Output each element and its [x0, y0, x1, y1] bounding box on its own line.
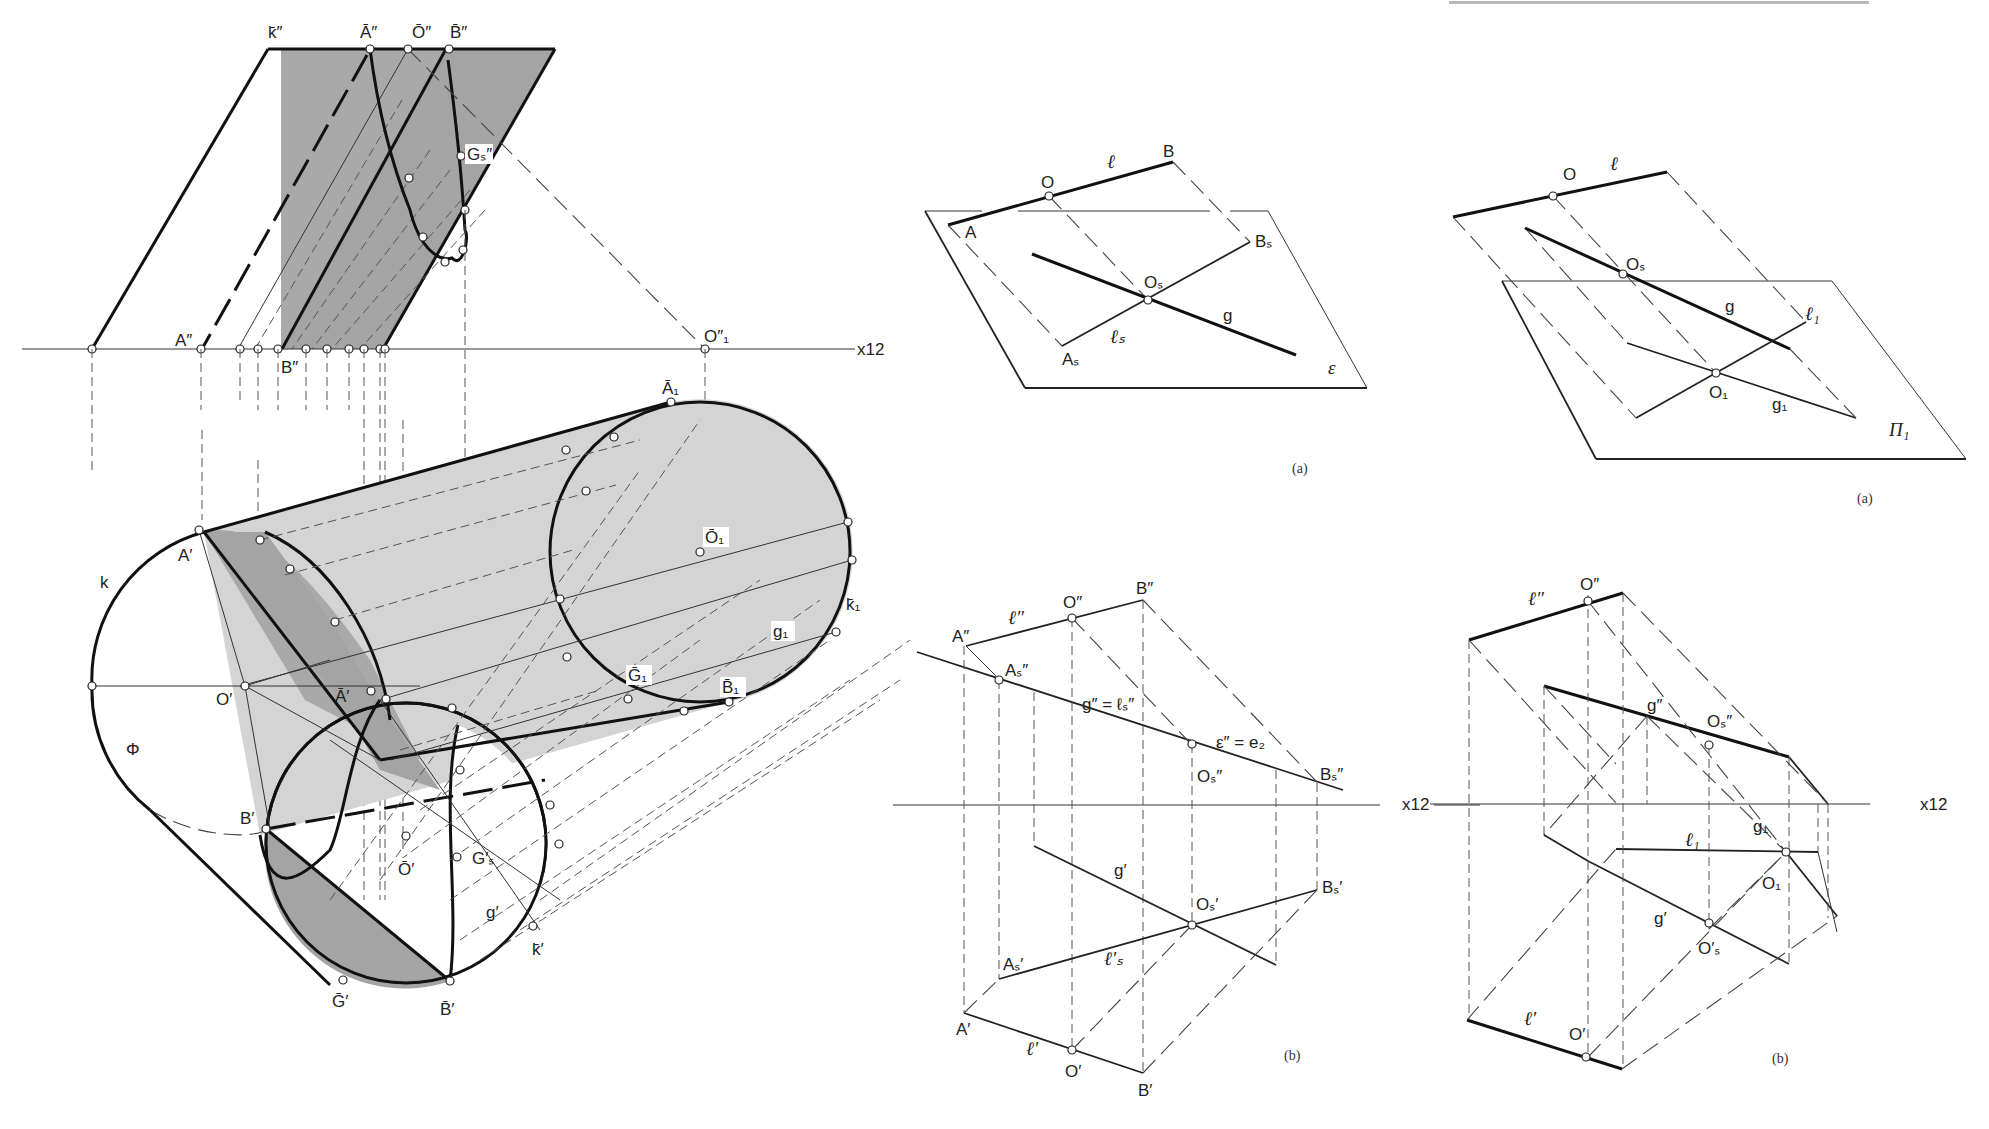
label-l1: ℓ₁ [1685, 829, 1700, 850]
label-a-dd: A″ [175, 331, 192, 350]
label-o-dd: O″ [1063, 593, 1082, 612]
label-o-bar-prime: Ō′ [398, 860, 414, 879]
label-os-p: O′ₛ [1698, 939, 1720, 958]
label-as: Aₛ [1062, 350, 1079, 369]
label-os-dd: Oₛ″ [1197, 767, 1222, 786]
caption-mid-b: (b) [1284, 1048, 1301, 1064]
caption-right-a: (a) [1857, 491, 1873, 507]
caption-mid-a: (a) [1292, 461, 1308, 477]
circle-k [92, 532, 204, 810]
label-l-p: ℓ′ [1026, 1038, 1039, 1059]
figure-right-b: ℓ″ O″ g″ Oₛ″ x12 g₁ ℓ₁ O₁ g′ O′ₛ ℓ′ O′ (… [1430, 575, 1947, 1069]
label-phi: Φ [126, 740, 140, 759]
label-g-dd: g″ [1647, 696, 1662, 715]
label-k-bar-dd: k̄″ [268, 23, 283, 42]
label-l: ℓ [1107, 151, 1115, 172]
label-g-prime: g′ [486, 903, 499, 922]
figure-mid-a: O ℓ B A Bₛ Oₛ g ℓₛ Aₛ ε (a) [925, 142, 1367, 477]
figure-left-cylinder-shadow [22, 45, 910, 989]
label-os-p: Oₛ′ [1196, 895, 1218, 914]
label-o1-bar: Ō₁ [705, 528, 724, 547]
label-bs-dd: Bₛ″ [1320, 765, 1343, 784]
label-b-dd: B″ [281, 358, 298, 377]
label-a-dd: A″ [952, 627, 969, 646]
label-g: g [1725, 297, 1734, 316]
label-g1-bar: Ḡ₁ [628, 666, 647, 685]
figure-mid-b: A″ ℓ″ O″ B″ Aₛ″ g″ = ℓₛ″ ε″ = e₂ Oₛ″ Bₛ″… [893, 579, 1480, 1100]
axis-label-x12-mid: x12 [1402, 795, 1429, 814]
label-g: g [1223, 306, 1232, 325]
label-os: Oₛ [1144, 273, 1163, 292]
label-o1: O₁ [1762, 874, 1781, 893]
label-a: A [965, 223, 977, 242]
label-o-bar-dd: Ō″ [412, 23, 431, 42]
axis-label-x12-right: x12 [1920, 795, 1947, 814]
caption-right-b: (b) [1772, 1051, 1789, 1067]
label-l: ℓ [1610, 153, 1618, 174]
label-g1: g₁ [1753, 817, 1768, 836]
label-gs-prime: G′ₛ [472, 849, 494, 868]
label-g1: g₁ [1772, 395, 1787, 414]
label-ls-p: ℓ′ₛ [1104, 948, 1124, 969]
label-b-prime: B′ [240, 809, 255, 828]
label-l-dd: ℓ″ [1008, 607, 1025, 628]
label-os: Oₛ [1626, 255, 1645, 274]
label-bs: Bₛ [1255, 232, 1272, 251]
label-a-bar-prime: Ā′ [335, 687, 350, 706]
label-g1: g₁ [773, 622, 788, 641]
label-a-prime: A′ [178, 546, 193, 565]
label-g-eq: g″ = ℓₛ″ [1082, 695, 1134, 714]
label-o: O [1563, 165, 1576, 184]
label-pi1: Π₁ [1888, 419, 1909, 440]
label-as-p: Aₛ′ [1003, 955, 1024, 974]
label-gs-dd: Gₛ″ [467, 145, 492, 164]
label-bs-p: Bₛ′ [1322, 878, 1343, 897]
label-o1-dd: O″₁ [704, 327, 729, 346]
label-a-bar-dd: Ā″ [360, 23, 377, 42]
label-a1-bar: Ā₁ [662, 379, 679, 398]
label-g-bar-prime: Ḡ′ [332, 992, 348, 1011]
label-k1-bar: k̄₁ [846, 595, 861, 614]
label-b1-bar: B̄₁ [722, 678, 739, 697]
axis-label-x12-left: x12 [857, 340, 884, 359]
label-b-bar-dd: B̄″ [450, 23, 467, 42]
label-ls: ℓₛ [1110, 326, 1126, 347]
label-o-p: O′ [1569, 1025, 1585, 1044]
label-a-p: A′ [956, 1020, 971, 1039]
label-o1: O₁ [1709, 383, 1728, 402]
label-l-dd: ℓ″ [1528, 588, 1545, 609]
label-as-dd: Aₛ″ [1005, 661, 1028, 680]
label-k-bar-prime: k̄′ [532, 940, 544, 959]
label-eps-eq: ε″ = e₂ [1216, 733, 1265, 752]
label-b: B [1163, 142, 1174, 161]
label-l1: ℓ₁ [1805, 303, 1820, 324]
geometry-plates: k̄″ Ā″ Ō″ B̄″ Gₛ″ A″ B″ O″₁ x12 Ā₁ Ō₁ k̄… [0, 0, 1989, 1129]
label-b-bar-prime: B̄′ [440, 1000, 455, 1019]
label-os-dd: Oₛ″ [1707, 712, 1732, 731]
label-g-p: g′ [1114, 861, 1127, 880]
label-k: k [100, 573, 109, 592]
label-l-p: ℓ′ [1524, 1008, 1537, 1029]
label-b-p: B′ [1138, 1081, 1153, 1100]
label-o: O [1041, 173, 1054, 192]
label-o-p: O′ [1065, 1062, 1081, 1081]
label-epsilon: ε [1328, 357, 1336, 378]
label-o-dd: O″ [1580, 575, 1599, 594]
label-o-prime: O′ [216, 690, 232, 709]
label-g-p: g′ [1654, 909, 1667, 928]
label-b-dd: B″ [1136, 579, 1153, 598]
figure-right-a: O ℓ Oₛ g ℓ₁ O₁ g₁ Π₁ (a) [1453, 153, 1966, 507]
